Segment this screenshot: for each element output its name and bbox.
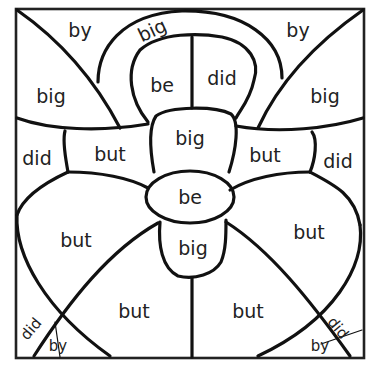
region-word-right-bow: but — [249, 144, 281, 166]
region-word-lower-right-petal: but — [293, 221, 325, 243]
region-word-bottom-left-corner-lower: by — [49, 337, 68, 355]
left-edge-lower-curve — [17, 172, 68, 215]
region-word-bottom-left-corner-upper: did — [17, 314, 46, 343]
left-petal-upper-line — [17, 118, 148, 129]
region-word-inner-right-loop: did — [207, 67, 236, 89]
left-bow-top — [64, 131, 68, 172]
region-word-left-edge-upper: did — [22, 147, 51, 169]
word-labels: bybigbybigbedidbigdidbutbigbutdidbebutbi… — [17, 14, 353, 355]
region-word-lower-left-petal: but — [60, 229, 92, 251]
lower-right-curve — [226, 222, 350, 356]
top-right-diagonal — [258, 10, 363, 128]
region-word-upper-right-petal: big — [310, 85, 339, 107]
region-word-inner-left-loop: be — [150, 74, 174, 96]
right-bow-bottom — [230, 172, 310, 190]
right-petal-upper-line — [236, 118, 363, 130]
region-word-right-edge-upper: did — [323, 150, 352, 172]
region-word-top-center-knot: big — [175, 127, 204, 149]
left-bow-bottom — [68, 172, 148, 188]
region-word-bottom-left-petal: but — [118, 300, 150, 322]
region-word-bottom-right-corner-lower: by — [311, 337, 330, 355]
region-word-bottom-center-knot: big — [178, 237, 207, 259]
region-word-upper-left-petal: big — [36, 85, 65, 107]
region-word-left-bow: but — [94, 143, 126, 165]
right-bow-right — [310, 132, 315, 172]
right-edge-lower-curve — [310, 172, 360, 225]
region-word-top-left-corner: by — [68, 19, 91, 41]
region-word-bottom-right-petal: but — [232, 300, 264, 322]
coloring-worksheet: bybigbybigbedidbigdidbutbigbutdidbebutbi… — [0, 0, 375, 372]
region-word-top-right-corner: by — [286, 19, 309, 41]
region-word-center-knot: be — [178, 186, 202, 208]
